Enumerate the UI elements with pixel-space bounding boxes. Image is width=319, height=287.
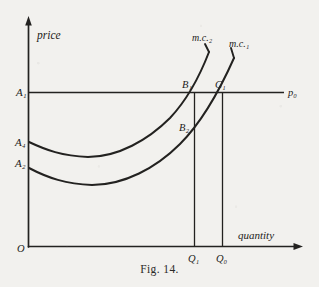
origin-label: O xyxy=(17,243,25,254)
point-label-b1: B₁ xyxy=(182,79,192,90)
figure-caption: Fig. 14. xyxy=(0,263,319,275)
curve-label-mc1: m.c.₁ xyxy=(229,38,249,49)
curve-mc1 xyxy=(29,58,234,185)
drop-lines-group xyxy=(195,93,223,247)
figure-container: A₁ A₄ A₂ Q₁ Q₀ B₁ C₁ B₂ m.c.₂ m.c.₁ pric… xyxy=(0,0,319,287)
curve-labels-group: m.c.₂ m.c.₁ xyxy=(192,32,249,49)
curve-label-mc2: m.c.₂ xyxy=(192,32,213,43)
y-axis-label-price: price xyxy=(36,29,61,42)
y-tick-label-a4: A₄ xyxy=(14,136,26,148)
axis-names-group: price quantity xyxy=(36,29,274,241)
curves-group xyxy=(29,52,234,185)
x-axis-arrowhead xyxy=(294,243,304,250)
y-tick-label-a1: A₁ xyxy=(15,86,27,98)
economics-diagram: A₁ A₄ A₂ Q₁ Q₀ B₁ C₁ B₂ m.c.₂ m.c.₁ pric… xyxy=(0,0,319,287)
point-label-b2: B₂ xyxy=(179,122,189,133)
curve-mc1-tail xyxy=(231,48,234,58)
y-tick-labels-group: A₁ A₄ A₂ xyxy=(14,86,27,169)
curve-mc2-tail xyxy=(205,44,209,52)
axes-group xyxy=(25,16,303,250)
y-axis-arrowhead xyxy=(25,16,32,26)
x-axis-label-quantity: quantity xyxy=(238,229,274,241)
point-labels-group: B₁ C₁ B₂ xyxy=(179,79,226,133)
price-line-label-p0: p₀ xyxy=(287,87,297,98)
y-tick-label-a2: A₂ xyxy=(14,157,26,169)
point-label-c1: C₁ xyxy=(215,79,226,90)
